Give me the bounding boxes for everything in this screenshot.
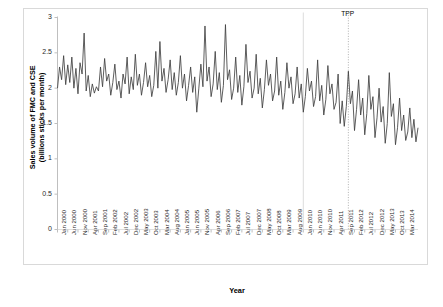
data-series	[58, 25, 419, 145]
chart-figure: Sales volume of FMC and CSE (billions st…	[0, 0, 443, 307]
annotation-lines	[303, 13, 348, 230]
axis-lines	[55, 17, 419, 233]
chart-canvas	[0, 0, 443, 307]
